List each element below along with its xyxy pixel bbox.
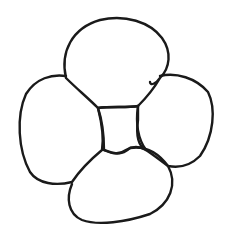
flower-drawing bbox=[0, 0, 237, 241]
petal-right bbox=[137, 75, 212, 167]
petal-left bbox=[20, 76, 103, 184]
petal-top bbox=[64, 18, 168, 108]
